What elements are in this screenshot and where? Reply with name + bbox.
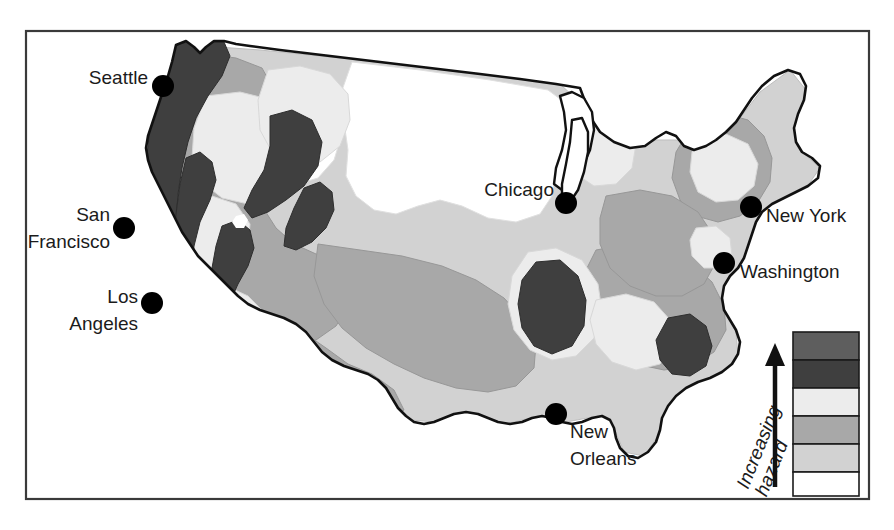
city-label-los-angeles-line2: Angeles: [69, 313, 138, 334]
legend-band-highest: [793, 332, 859, 360]
city-dot-seattle: [152, 75, 174, 97]
city-label-new-york: New York: [766, 205, 847, 226]
legend-band-low: [793, 444, 859, 472]
city-label-san-francisco-line1: San: [76, 204, 110, 225]
city-label-los-angeles-line1: Los: [107, 286, 138, 307]
city-dot-san-francisco: [113, 217, 135, 239]
city-dot-new-orleans: [545, 403, 567, 425]
city-label-washington: Washington: [740, 261, 840, 282]
city-dot-chicago: [555, 192, 577, 214]
city-label-seattle: Seattle: [89, 67, 148, 88]
city-dot-new-york: [740, 196, 762, 218]
legend-band-mid-high: [793, 388, 859, 416]
city-label-chicago: Chicago: [484, 179, 554, 200]
city-dot-washington: [713, 252, 735, 274]
city-dot-los-angeles: [141, 292, 163, 314]
legend-band-lowest: [793, 472, 859, 496]
legend-band-stack: [793, 332, 859, 496]
city-label-san-francisco-line2: Francisco: [28, 231, 110, 252]
legend-band-mid: [793, 416, 859, 444]
us-seismic-hazard-map: Seattle San Francisco Los Angeles Chicag…: [0, 0, 894, 530]
seismic-hazard-figure: Seattle San Francisco Los Angeles Chicag…: [0, 0, 894, 530]
city-label-new-orleans-line1: New: [570, 421, 608, 442]
legend-band-high: [793, 360, 859, 388]
city-label-new-orleans-line2: Orleans: [570, 448, 637, 469]
